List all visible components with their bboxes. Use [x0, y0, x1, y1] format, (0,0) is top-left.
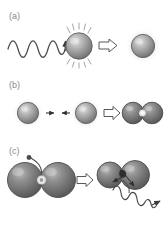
panel-c: (c): [8, 146, 161, 208]
implies-arrow-c-icon: [77, 174, 93, 187]
glowing-nanoparticle-icon: [125, 28, 161, 64]
panel-b-label: (b): [9, 80, 20, 90]
incident-wave-icon: [8, 41, 66, 58]
panel-b: (b): [9, 80, 163, 129]
panel-a-label: (a): [9, 11, 20, 21]
implies-arrow-b-icon: [104, 107, 120, 120]
panel-a: (a): [8, 11, 161, 68]
implies-arrow-a-icon: [99, 39, 117, 52]
panel-c-label: (c): [9, 146, 20, 156]
hotspot-icon: [139, 110, 146, 117]
excited-nanoparticle-icon: [66, 23, 92, 68]
schematic-svg: (a): [0, 0, 166, 229]
nanoparticle-left-icon: [12, 97, 44, 129]
dimer-icon: [8, 163, 76, 198]
separating-dimer-icon: [97, 161, 150, 194]
dimer-with-hotspot-icon: [122, 102, 163, 124]
nanoparticle-right-icon: [70, 97, 102, 129]
figure-container: (a): [0, 0, 166, 229]
